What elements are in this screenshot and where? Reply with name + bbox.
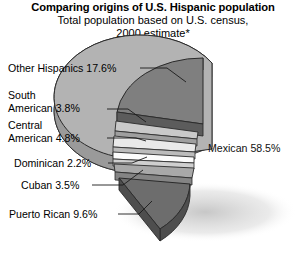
label-other-hispanics: Other Hispanics 17.6% (8, 62, 116, 74)
pie-chart-figure: Comparing origins of U.S. Hispanic popul… (0, 0, 306, 255)
label-central-american-line-1: Central (8, 119, 104, 131)
label-cuban: Cuban 3.5% (21, 179, 79, 191)
label-south-american-line-2: American 3.8% (8, 102, 108, 114)
label-puerto-rican: Puerto Rican 9.6% (9, 208, 97, 220)
label-mexican: Mexican 58.5% (208, 142, 280, 154)
label-south-american-line-1: South (8, 89, 104, 101)
label-dominican: Dominican 2.2% (14, 157, 91, 169)
label-central-american-line-2: American 4.8% (8, 132, 108, 144)
